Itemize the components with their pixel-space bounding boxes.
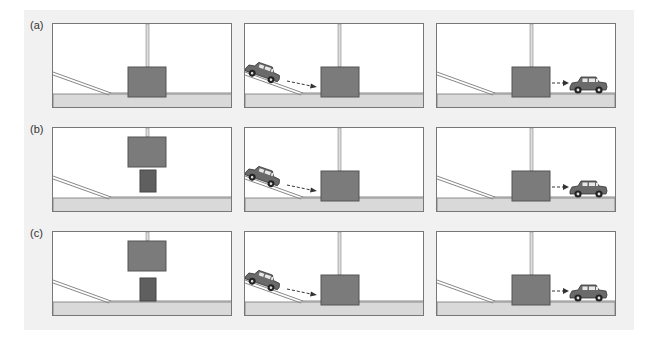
car-icon <box>570 181 607 198</box>
small-block <box>140 278 156 301</box>
panel-c3 <box>436 231 616 316</box>
car-icon <box>570 77 607 94</box>
panel-a3 <box>436 23 616 108</box>
row-label-c: (c) <box>30 227 43 239</box>
panel-b3 <box>436 127 616 212</box>
block <box>128 67 166 97</box>
panel-c1 <box>52 231 232 316</box>
car-icon <box>570 285 607 302</box>
row-label-b: (b) <box>30 123 43 135</box>
arrow <box>287 81 311 86</box>
panel-b1 <box>52 127 232 212</box>
panel-b2 <box>244 127 424 212</box>
panel-a1 <box>52 23 232 108</box>
pole <box>146 24 149 67</box>
small-block <box>140 170 156 192</box>
panel-a2 <box>244 23 424 108</box>
block-raised <box>128 137 166 167</box>
row-label-a: (a) <box>30 19 43 31</box>
panel-c2 <box>244 231 424 316</box>
